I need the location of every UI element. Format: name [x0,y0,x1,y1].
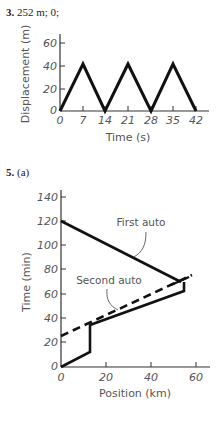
x-tick-label: 21 [121,114,135,127]
y-ticks [60,43,65,89]
x-tick-label: 0 [57,114,64,127]
y-tick-label: 40 [43,60,57,73]
y-tick-label: 120 [37,215,58,228]
y-axis-label: Time (min) [20,252,33,313]
y-tick-label: 20 [44,336,58,349]
second-auto-leader [107,289,118,310]
y-tick-label: 80 [44,263,58,276]
displacement-line [60,64,196,111]
charts-canvas: 60 40 20 0 0 7 14 21 28 35 42 Time (s) D… [0,0,220,424]
y-tick-label: 40 [44,312,58,325]
x-tick-label: 42 [189,114,203,127]
x-ticks [83,106,196,111]
first-auto-line [61,221,181,282]
second-auto-line [61,282,184,367]
x-tick-label: 60 [189,371,203,384]
x-axis-label: Position (km) [99,387,171,400]
x-ticks [106,362,196,367]
x-tick-label: 35 [166,114,180,127]
x-tick-label: 20 [99,371,113,384]
y-axis-label: Displacement (m) [19,25,32,123]
y-ticks [61,197,66,342]
time-position-chart: 140 120 100 80 60 40 20 0 0 20 40 60 Pos… [20,190,210,400]
second-auto-label: Second auto [76,274,142,286]
y-tick-label: 60 [44,288,58,301]
displacement-chart: 60 40 20 0 0 7 14 21 28 35 42 Time (s) D… [19,25,209,144]
x-tick-label: 7 [80,114,87,127]
first-auto-label: First auto [116,216,165,228]
y-tick-label: 100 [37,239,58,252]
y-tick-label: 60 [43,37,57,50]
x-tick-label: 0 [58,371,65,384]
x-tick-label: 40 [144,371,158,384]
first-auto-leader [134,232,146,257]
y-tick-label: 20 [43,83,57,96]
y-tick-label: 140 [37,191,58,204]
x-tick-label: 14 [98,114,112,127]
x-tick-label: 28 [144,114,158,127]
x-axis-label: Time (s) [105,131,151,144]
